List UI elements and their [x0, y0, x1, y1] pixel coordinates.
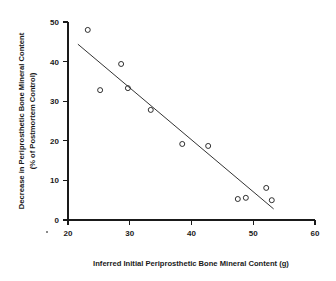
data-point	[98, 88, 103, 93]
x-axis-title: Inferred Initial Periprosthetic Bone Min…	[93, 259, 289, 268]
data-point	[269, 198, 274, 203]
x-tick-label-60: 60	[311, 229, 320, 238]
y-tick-label-0: 0	[55, 216, 60, 225]
y-tick-label-40: 40	[50, 58, 59, 67]
data-point	[206, 143, 211, 148]
regression-line	[78, 44, 274, 209]
y-tick-label-20: 20	[50, 137, 59, 146]
y-axis-title-line1: Decrease in Periprosthetic Bone Mineral …	[17, 32, 26, 209]
y-axis-ticks	[63, 22, 68, 220]
y-tick-label-50: 50	[50, 18, 59, 27]
data-point	[85, 27, 90, 32]
x-tick-label-40: 40	[187, 229, 196, 238]
data-point	[119, 61, 124, 66]
x-axis-ticks	[68, 220, 315, 225]
x-tick-label-20: 20	[64, 229, 73, 238]
y-axis-title-line2: (% of Postmortem Control)	[28, 72, 37, 169]
y-axis-tick-labels: 0 10 20 30 40 50	[50, 18, 59, 225]
data-point	[148, 107, 153, 112]
y-tick-label-10: 10	[50, 176, 59, 185]
data-point	[243, 195, 248, 200]
x-tick-label-30: 30	[125, 229, 134, 238]
data-point	[180, 141, 185, 146]
data-points-group	[85, 27, 274, 202]
x-axis-tick-labels: 20 30 40 50 60	[64, 229, 320, 238]
scatter-plot: 0 10 20 30 40 50 20 30 40 50 60	[0, 0, 336, 281]
y-tick-label-30: 30	[50, 97, 59, 106]
stray-speck	[46, 231, 48, 233]
data-point	[235, 197, 240, 202]
x-tick-label-50: 50	[249, 229, 258, 238]
chart-figure: 0 10 20 30 40 50 20 30 40 50 60	[0, 0, 336, 281]
data-point	[264, 185, 269, 190]
